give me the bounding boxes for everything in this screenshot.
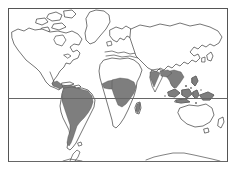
range-island-dot-4 (200, 89, 202, 91)
range-island-dot-5 (164, 95, 166, 97)
range-island-dot-3 (195, 102, 197, 104)
range-island-dot-2 (190, 87, 192, 89)
range-island-dot-1 (185, 85, 187, 87)
map-canvas (0, 0, 237, 173)
tasmania-outline (204, 128, 209, 133)
world-distribution-map: cylindrical equirectangular shaded range… (0, 0, 237, 173)
